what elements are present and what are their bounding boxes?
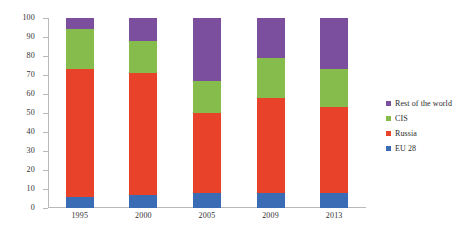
bar-segment [129,41,157,73]
bar-segment [129,18,157,41]
y-axis-tick-label: 60 [27,90,35,98]
x-axis-labels: 19952000200520092013 [48,212,366,220]
y-axis-tick-label: 100 [22,14,35,22]
y-axis-tick-label: 40 [27,128,35,136]
bar-segment [193,113,221,193]
bar-segment [193,193,221,208]
y-axis-tick [43,208,48,209]
y-axis-tick-label: 80 [27,52,35,60]
bar-slot-2005 [175,18,239,208]
bar-segment [66,197,94,208]
chart-legend: Rest of the worldCISRussiaEU 28 [386,96,466,156]
stacked-bar-chart: 0102030405060708090100 19952000200520092… [0,0,466,246]
y-axis-tick-label: 50 [27,109,35,117]
legend-item[interactable]: EU 28 [386,141,466,156]
bar-slot-1995 [48,18,112,208]
legend-item[interactable]: CIS [386,111,466,126]
stacked-bar-2005[interactable] [193,18,221,208]
bar-segment [129,195,157,208]
y-axis-tick-label: 90 [27,33,35,41]
bar-segment [320,107,348,193]
plot-area: 0102030405060708090100 [48,18,366,208]
x-axis-label-2013: 2013 [302,212,366,220]
legend-item[interactable]: Russia [386,126,466,141]
bar-slot-2000 [112,18,176,208]
legend-label: Rest of the world [395,100,452,108]
legend-label: CIS [395,115,408,123]
bar-segment [257,58,285,98]
bar-slot-2009 [239,18,303,208]
bar-segment [129,73,157,195]
bar-segment [66,18,94,29]
bar-slot-2013 [302,18,366,208]
y-axis-tick-label: 10 [27,185,35,193]
x-axis-label-2000: 2000 [112,212,176,220]
legend-label: EU 28 [395,145,416,153]
y-axis-tick-label: 70 [27,71,35,79]
x-axis-label-1995: 1995 [48,212,112,220]
stacked-bar-2013[interactable] [320,18,348,208]
stacked-bar-2000[interactable] [129,18,157,208]
bar-segment [193,18,221,81]
stacked-bar-2009[interactable] [257,18,285,208]
bar-segment [193,81,221,113]
legend-swatch-eu-28 [386,146,391,151]
y-axis-tick-label: 30 [27,147,35,155]
legend-swatch-russia [386,131,391,136]
y-axis-tick-label: 20 [27,166,35,174]
bar-segment [320,69,348,107]
legend-swatch-cis [386,116,391,121]
x-axis-label-2005: 2005 [175,212,239,220]
y-axis-tick-label: 0 [31,204,35,212]
bar-segment [257,18,285,58]
bar-segment [66,29,94,69]
legend-item[interactable]: Rest of the world [386,96,466,111]
bar-segment [257,98,285,193]
legend-label: Russia [395,130,417,138]
bar-group [48,18,366,208]
bar-segment [257,193,285,208]
legend-swatch-rest-of-the-world [386,101,391,106]
bar-segment [66,69,94,196]
bar-segment [320,193,348,208]
bar-segment [320,18,348,69]
stacked-bar-1995[interactable] [66,18,94,208]
x-axis-label-2009: 2009 [239,212,303,220]
